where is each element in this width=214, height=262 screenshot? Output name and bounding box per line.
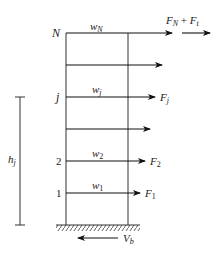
weight-label-2: w2 <box>92 147 103 161</box>
force-label-2: F2 <box>149 155 161 169</box>
level-label-1: 1 <box>56 187 62 199</box>
ground-hatching <box>56 225 140 231</box>
force-label-j: Fj <box>159 91 170 105</box>
weight-label-N: wN <box>90 20 103 34</box>
level-label-2: 2 <box>56 155 62 167</box>
level-label-N: N <box>51 26 61 40</box>
level-label-j: j <box>54 90 60 104</box>
weight-label-j: wj <box>92 83 102 97</box>
shear-building-diagram: N j 2 1 wN wj w2 w1 FN + Ft Fj F2 F1 hj … <box>0 0 214 262</box>
force-label-1: F1 <box>144 187 156 201</box>
base-shear-label: Vb <box>123 232 134 246</box>
weight-label-1: w1 <box>92 179 103 193</box>
force-label-N-plus-Ft: FN + Ft <box>165 14 200 28</box>
